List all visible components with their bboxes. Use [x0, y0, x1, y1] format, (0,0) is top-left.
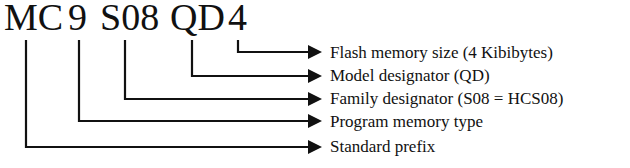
segment-qd: QD	[170, 0, 225, 38]
label-model: Model designator (QD)	[330, 66, 490, 85]
connector-line	[238, 40, 310, 52]
segment-mc: MC	[4, 0, 63, 38]
arrow-right-icon	[308, 69, 322, 83]
label-family: Family designator (S08 = HCS08)	[330, 89, 563, 108]
callout-flash-size: Flash memory size (4 Kibibytes)	[238, 40, 553, 62]
arrow-right-icon	[308, 92, 322, 106]
arrow-right-icon	[308, 45, 322, 59]
part-number-diagram: MC 9 S08 QD 4 Flash memory size (4 Kibib…	[0, 0, 630, 168]
connector-line	[26, 40, 310, 147]
connector-line	[125, 40, 310, 99]
arrow-right-icon	[308, 140, 322, 154]
label-flash-size: Flash memory size (4 Kibibytes)	[330, 43, 553, 62]
label-memory-type: Program memory type	[330, 112, 483, 131]
segment-s08: S08	[100, 0, 159, 38]
label-prefix: Standard prefix	[330, 137, 436, 156]
segment-4: 4	[228, 0, 247, 38]
arrow-right-icon	[308, 114, 322, 128]
connector-line	[192, 40, 310, 76]
part-number: MC 9 S08 QD 4	[4, 0, 247, 38]
segment-9: 9	[68, 0, 87, 38]
